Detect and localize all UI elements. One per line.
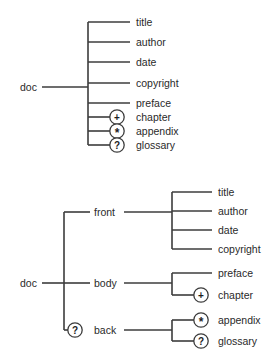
node-label-preface-top: preface — [136, 97, 171, 109]
node-label-chapter-top: chapter — [136, 111, 172, 123]
node-label-author-top: author — [136, 36, 166, 48]
node-label-glossary-bottom: glossary — [218, 335, 258, 347]
node-label-date-bottom: date — [218, 224, 239, 236]
node-appendix-bottom: * appendix — [172, 313, 261, 329]
branch-label-body: body — [94, 277, 118, 289]
occurrence-glyph-glossary-top: ? — [114, 140, 120, 151]
content-model-trees-svg: doc title author date copyright — [0, 0, 274, 362]
branch-label-back: back — [94, 324, 117, 336]
node-label-title-top: title — [136, 16, 153, 28]
node-label-chapter-bottom: chapter — [218, 289, 254, 301]
node-preface-top: preface — [88, 97, 171, 109]
node-label-preface-bottom: preface — [218, 267, 253, 279]
node-date-bottom: date — [172, 224, 239, 236]
root-label-doc-top: doc — [20, 81, 37, 93]
node-label-date-top: date — [136, 56, 157, 68]
diagram-nested-content-model: doc front title author — [20, 186, 261, 348]
node-title-bottom: title — [172, 186, 235, 198]
node-author-bottom: author — [172, 205, 248, 217]
node-label-copyright-bottom: copyright — [218, 243, 261, 255]
node-glossary-top: ? glossary — [88, 138, 176, 152]
node-chapter-top: + chapter — [88, 110, 172, 124]
occurrence-glyph-appendix-bottom: * — [199, 315, 204, 329]
node-title-top: title — [88, 16, 153, 28]
occurrence-glyph-back: ? — [72, 325, 78, 336]
node-glossary-bottom: ? glossary — [172, 334, 258, 348]
node-date-top: date — [88, 56, 157, 68]
node-label-glossary-top: glossary — [136, 139, 176, 151]
node-preface-bottom: preface — [172, 267, 253, 279]
node-copyright-bottom: copyright — [172, 243, 261, 255]
branch-front: front title author date copyrig — [64, 186, 261, 255]
node-appendix-top: * appendix — [88, 124, 179, 140]
node-chapter-bottom: + chapter — [172, 288, 254, 302]
node-author-top: author — [88, 36, 166, 48]
node-label-appendix-bottom: appendix — [218, 314, 261, 326]
branch-body: body preface + chapter — [64, 267, 254, 302]
node-copyright-top: copyright — [88, 77, 179, 89]
node-label-author-bottom: author — [218, 205, 248, 217]
branch-label-front: front — [94, 206, 115, 218]
occurrence-glyph-glossary-bottom: ? — [198, 336, 204, 347]
node-label-title-bottom: title — [218, 186, 235, 198]
occurrence-glyph-chapter-top: + — [114, 112, 120, 123]
content-model-diagram-canvas: doc title author date copyright — [0, 0, 274, 362]
node-label-appendix-top: appendix — [136, 125, 179, 137]
root-label-doc-bottom: doc — [20, 277, 37, 289]
occurrence-glyph-chapter-bottom: + — [198, 290, 204, 301]
node-label-copyright-top: copyright — [136, 77, 179, 89]
diagram-flat-content-model: doc title author date copyright — [20, 16, 179, 152]
branch-back: ? back * appendix ? glossary — [64, 313, 261, 348]
